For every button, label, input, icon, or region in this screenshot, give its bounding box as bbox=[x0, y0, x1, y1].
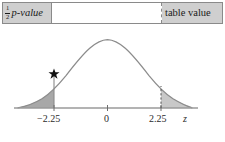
tick-label-zero: 0 bbox=[104, 114, 109, 124]
right-tail-shaded-region bbox=[161, 89, 192, 108]
curve-svg bbox=[0, 24, 225, 142]
tick-label-neg-2-25: −2.25 bbox=[37, 114, 60, 124]
tick-label-pos-2-25: 2.25 bbox=[149, 114, 167, 124]
fraction-denominator: 2 bbox=[6, 14, 9, 21]
header-cell-blank bbox=[52, 3, 162, 23]
x-axis-label: z bbox=[183, 114, 187, 124]
fraction-numerator: 1 bbox=[6, 5, 9, 12]
header-cell-half-p-value: 1 2 p-value bbox=[3, 3, 52, 23]
header-left-label: p-value bbox=[12, 8, 44, 19]
header-cell-table-value: table value bbox=[162, 3, 222, 23]
figure-container: 1 2 p-value table value bbox=[0, 0, 225, 142]
normal-curve-plot: −2.25 0 2.25 z bbox=[0, 24, 225, 142]
header-bar: 1 2 p-value table value bbox=[2, 2, 223, 24]
one-half-fraction: 1 2 bbox=[5, 5, 10, 20]
left-tail-shaded-region bbox=[18, 89, 54, 108]
header-right-label: table value bbox=[165, 8, 211, 19]
